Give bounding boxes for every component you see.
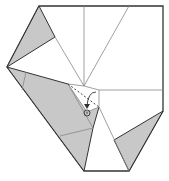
- target-dot: [86, 112, 88, 114]
- origami-diagram: [0, 0, 169, 181]
